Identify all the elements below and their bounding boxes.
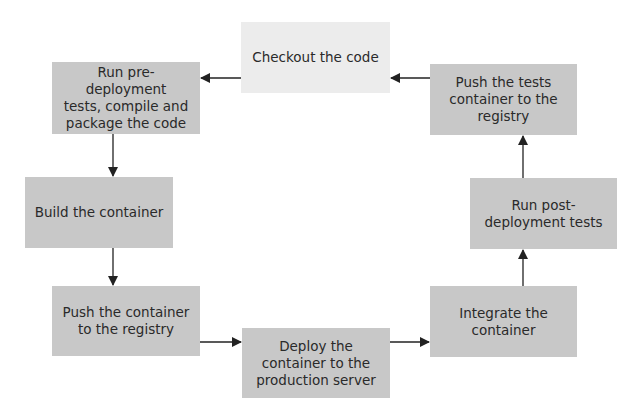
- node-checkout: Checkout the code: [241, 22, 390, 93]
- node-label: Build the container: [35, 204, 164, 221]
- node-label: Integrate the container: [459, 305, 548, 339]
- node-pre-deployment-tests: Run pre-deployment tests, compile and pa…: [52, 62, 200, 134]
- node-label: Deploy the container to the production s…: [256, 338, 376, 389]
- node-label: Run pre-deployment tests, compile and pa…: [58, 64, 194, 132]
- node-label: Run post- deployment tests: [485, 197, 603, 231]
- node-label: Checkout the code: [252, 49, 378, 66]
- node-push-container: Push the container to the registry: [52, 286, 200, 356]
- node-push-tests-container: Push the tests container to the registry: [430, 64, 577, 135]
- node-build-container: Build the container: [25, 177, 173, 248]
- node-deploy: Deploy the container to the production s…: [242, 328, 390, 398]
- node-label: Push the container to the registry: [63, 304, 190, 338]
- node-post-deployment-tests: Run post- deployment tests: [470, 178, 617, 249]
- node-integrate: Integrate the container: [430, 286, 577, 357]
- node-label: Push the tests container to the registry: [449, 74, 557, 125]
